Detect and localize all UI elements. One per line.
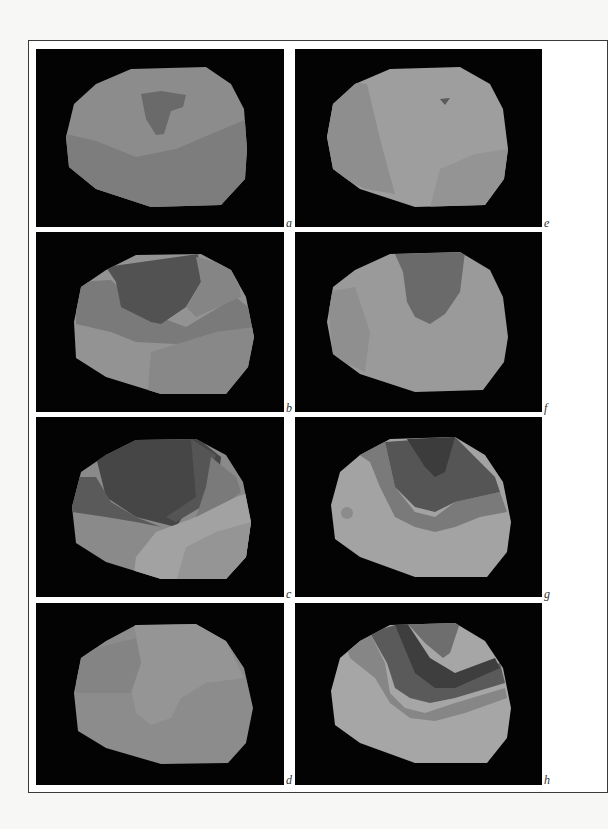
brain-map-f	[295, 232, 542, 412]
panel-label-a: a	[286, 217, 292, 229]
panel-g	[295, 417, 542, 597]
brain-map-c	[36, 417, 284, 597]
panel-c	[36, 417, 284, 597]
brain-map-h	[295, 603, 542, 785]
brain-map-b	[36, 232, 284, 412]
panel-d	[36, 603, 284, 785]
brain-map-d	[36, 603, 284, 785]
panel-a	[36, 49, 284, 227]
panel-label-d: d	[286, 774, 292, 786]
panel-label-c: c	[286, 588, 291, 600]
panel-label-b: b	[286, 402, 292, 414]
panel-label-g: g	[544, 588, 550, 600]
panel-h	[295, 603, 542, 785]
brain-map-e	[295, 49, 542, 227]
panel-f	[295, 232, 542, 412]
panel-b	[36, 232, 284, 412]
brain-map-g	[295, 417, 542, 597]
panel-label-e: e	[544, 217, 549, 229]
panel-label-f: f	[544, 402, 547, 414]
brain-map-a	[36, 49, 284, 227]
panel-e	[295, 49, 542, 227]
panel-label-h: h	[544, 774, 550, 786]
